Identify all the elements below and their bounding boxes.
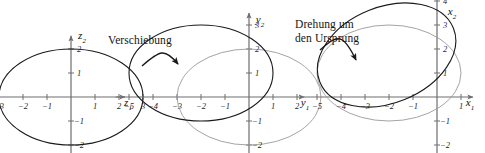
annotation-rotate: Drehung um xyxy=(295,18,354,31)
panel-x-ytick-label: −2 xyxy=(440,140,450,150)
panel-y-xtick-label: −4 xyxy=(148,101,158,111)
panel-y-x-axis-label: y1 xyxy=(301,96,309,111)
panel-y-xtick-label: 2 xyxy=(295,101,299,111)
panel-x-ytick-label: 2 xyxy=(443,44,447,54)
panel-x-xtick-label: −2 xyxy=(384,101,394,111)
panel-y-ytick-label: −2 xyxy=(252,140,262,150)
panel-y-y-axis-label: y2 xyxy=(256,13,264,28)
panel-y-xtick-label: −3 xyxy=(172,101,182,111)
panel-x-xtick-label: 1 xyxy=(459,101,463,111)
panel-y-xtick-label: −1 xyxy=(220,101,230,111)
panel-y-ytick-label: 2 xyxy=(255,44,259,54)
annotation-rotate2: den Ursprung xyxy=(295,32,359,45)
panel-y-ytick-label: −1 xyxy=(252,116,262,126)
transformation-figure xyxy=(0,0,485,153)
panel-y-xtick-label: −2 xyxy=(196,101,206,111)
panel-x-xtick-label: −5 xyxy=(312,101,322,111)
panel-z-ytick-label: −1 xyxy=(74,116,84,126)
panel-x-ytick-label: −1 xyxy=(440,116,450,126)
panel-z-xtick-label: 2 xyxy=(117,101,121,111)
panel-z-xtick-label: −1 xyxy=(42,101,52,111)
panel-x-ytick-label: 1 xyxy=(443,68,447,78)
panel-z-ytick-label: −2 xyxy=(74,140,84,150)
panel-x-y-axis-label: x2 xyxy=(448,5,456,20)
panel-z-xtick-label: −2 xyxy=(18,101,28,111)
panel-z-xtick-label: −3 xyxy=(0,101,4,111)
panel-x-ytick-label: 4 xyxy=(443,0,447,6)
panel-x-xtick-label: −4 xyxy=(336,101,346,111)
arrow-shift xyxy=(142,53,178,66)
panel-z-xtick-label: 3 xyxy=(141,101,145,111)
panel-y-ytick-label: 1 xyxy=(255,68,259,78)
panel-z-ytick-label: 2 xyxy=(77,44,81,54)
panel-x-ytick-label: 3 xyxy=(443,20,447,30)
panel-x-xtick-label: −3 xyxy=(360,101,370,111)
panel-z-y-axis-label: z2 xyxy=(78,29,86,44)
panel-z xyxy=(0,36,143,153)
panel-x-xtick-label: −1 xyxy=(408,101,418,111)
panel-y-xtick-label: 1 xyxy=(271,101,275,111)
annotation-shift: Verschiebung xyxy=(108,34,172,47)
panel-x-x-axis-label: x1 xyxy=(466,96,474,111)
panel-y-xtick-label: −5 xyxy=(124,101,134,111)
panel-z-ytick-label: 1 xyxy=(77,68,81,78)
panel-z-xtick-label: 1 xyxy=(93,101,97,111)
